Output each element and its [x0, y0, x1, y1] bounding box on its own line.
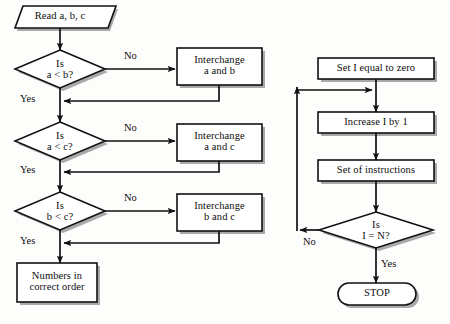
- process3-shape: [177, 194, 262, 231]
- process1-shape: [177, 48, 262, 85]
- decision1-shape: [15, 50, 105, 88]
- increment-box-shape: [318, 112, 434, 133]
- process2-shape: [177, 124, 262, 161]
- init-box-shape: [318, 58, 434, 79]
- instructions-box-shape: [318, 160, 434, 181]
- decision2-shape: [15, 122, 105, 160]
- start-terminal-shape: [15, 6, 116, 28]
- decision3-shape: [15, 192, 105, 230]
- end-box-shape: [17, 263, 97, 302]
- flowchart-page: Read a, b, c Is a < b? Interchange a and…: [0, 0, 450, 324]
- loop-decision-shape: [319, 212, 433, 248]
- stop-terminal-shape: [338, 283, 416, 305]
- flowchart-canvas: [0, 0, 450, 324]
